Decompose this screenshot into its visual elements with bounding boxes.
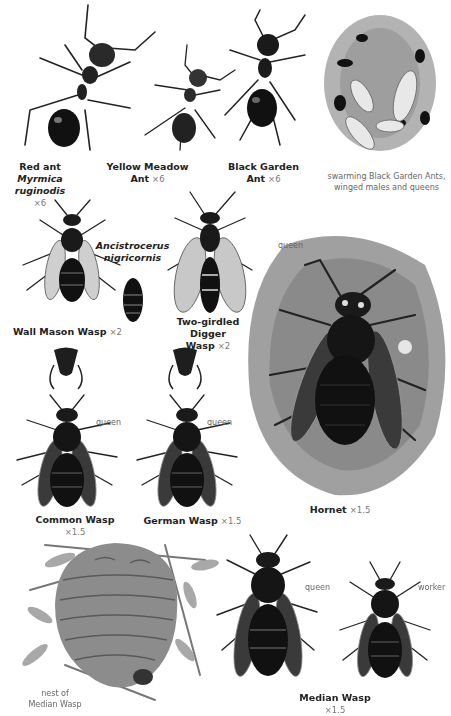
hornet-illustration — [245, 225, 450, 505]
scientific-name-line1: Ancistrocerus — [95, 240, 170, 252]
common-name-line2: Ant — [130, 173, 149, 184]
swarming-ants-illustration — [320, 8, 450, 148]
scale-label: ×1.5 — [221, 516, 242, 526]
median-wasp-worker-illustration — [335, 560, 435, 690]
scale-label: ×1.5 — [350, 505, 371, 515]
tag-german-wasp-queen: queen — [207, 418, 232, 427]
common-name: Wall Mason Wasp — [13, 326, 107, 337]
common-name: Red ant — [19, 161, 61, 172]
caption-black-garden-ant: Black Garden Ant ×6 — [226, 161, 301, 185]
caption-yellow-meadow-ant: Yellow Meadow Ant ×6 — [105, 161, 190, 185]
common-name: Common Wasp — [36, 514, 115, 525]
tag-median-wasp-worker: worker — [418, 583, 445, 592]
common-name: Median Wasp — [299, 692, 370, 703]
german-wasp-face-illustration — [165, 345, 205, 390]
caption-ancistrocerus: Ancistrocerus nigricornis — [95, 240, 170, 264]
note-line1: nest of — [41, 689, 69, 698]
scale-label: ×1.5 — [325, 705, 346, 715]
note-swarming-ants: swarming Black Garden Ants, winged males… — [324, 171, 449, 193]
common-wasp-illustration — [12, 395, 122, 515]
common-name-line1: Black Garden — [228, 161, 299, 172]
caption-hornet: Hornet ×1.5 — [300, 504, 380, 516]
scientific-name: Myrmica ruginodis — [2, 173, 78, 197]
scale-label: ×6 — [268, 174, 281, 184]
common-wasp-face-illustration — [46, 345, 86, 390]
common-name-line1: Yellow Meadow — [107, 161, 189, 172]
note-median-wasp-nest: nest of Median Wasp — [20, 688, 90, 710]
scale-label: ×2 — [110, 327, 123, 337]
note-line2: Median Wasp — [28, 700, 81, 709]
note-line1: swarming Black Garden Ants, — [328, 172, 446, 181]
scale-label: ×6 — [152, 174, 165, 184]
caption-median-wasp: Median Wasp ×1.5 — [290, 692, 380, 716]
common-name-line1: Two-girdled Digger — [177, 316, 240, 339]
red-ant-illustration — [0, 0, 150, 150]
german-wasp-illustration — [132, 395, 242, 515]
tag-median-wasp-queen: queen — [305, 583, 330, 592]
ancistrocerus-abdomen-illustration — [118, 275, 148, 325]
median-wasp-queen-illustration — [212, 530, 322, 690]
black-garden-ant-illustration — [210, 10, 310, 150]
scientific-name-line2: nigricornis — [95, 252, 170, 264]
tag-common-wasp-queen: queen — [96, 418, 121, 427]
median-wasp-nest-illustration — [5, 535, 225, 705]
note-line2: winged males and queens — [334, 183, 439, 192]
caption-wall-mason-wasp: Wall Mason Wasp ×2 — [10, 326, 125, 338]
scale-label: ×2 — [218, 341, 231, 351]
tag-hornet-queen: queen — [278, 241, 303, 250]
common-name: Hornet — [310, 504, 347, 515]
caption-german-wasp: German Wasp ×1.5 — [140, 515, 245, 527]
common-name: German Wasp — [144, 515, 218, 526]
common-name-line2: Ant — [246, 173, 265, 184]
